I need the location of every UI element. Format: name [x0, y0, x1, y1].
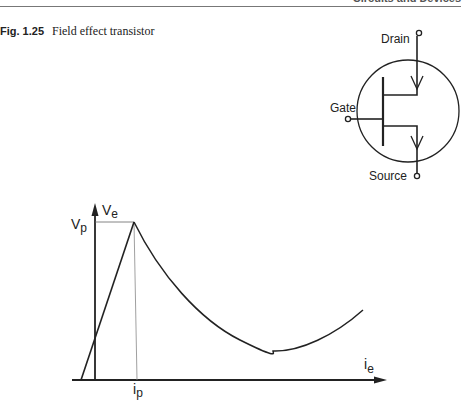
- gate-label: Gate: [330, 101, 356, 115]
- transistor-envelope: [357, 60, 459, 162]
- characteristic-curve: [134, 222, 363, 354]
- y-axis-arrow-icon: [92, 203, 99, 216]
- drain-terminal: [416, 30, 421, 35]
- figure-canvas: Drain Gate Source Ve Vp ie ip: [0, 0, 473, 410]
- fet-symbol: [345, 30, 459, 178]
- ip-label: ip: [133, 381, 143, 400]
- source-terminal: [414, 173, 419, 178]
- gate-terminal: [345, 116, 350, 121]
- y-axis-label: Ve: [102, 202, 118, 221]
- source-label: Source: [369, 169, 407, 183]
- ip-guide-line: [134, 222, 137, 380]
- vp-label: Vp: [71, 216, 87, 235]
- x-axis-label: ie: [364, 356, 374, 376]
- drain-label: Drain: [381, 32, 410, 46]
- x-axis-arrow-icon: [374, 377, 387, 384]
- characteristic-graph: [72, 203, 387, 384]
- source-lead: [383, 126, 417, 173]
- rising-segment: [81, 222, 134, 380]
